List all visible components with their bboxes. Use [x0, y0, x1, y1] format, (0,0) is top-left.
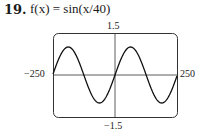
plot-area: [0, 0, 203, 138]
